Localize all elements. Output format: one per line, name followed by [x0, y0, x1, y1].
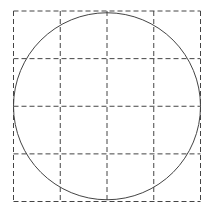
diagram-canvas: [0, 0, 213, 214]
